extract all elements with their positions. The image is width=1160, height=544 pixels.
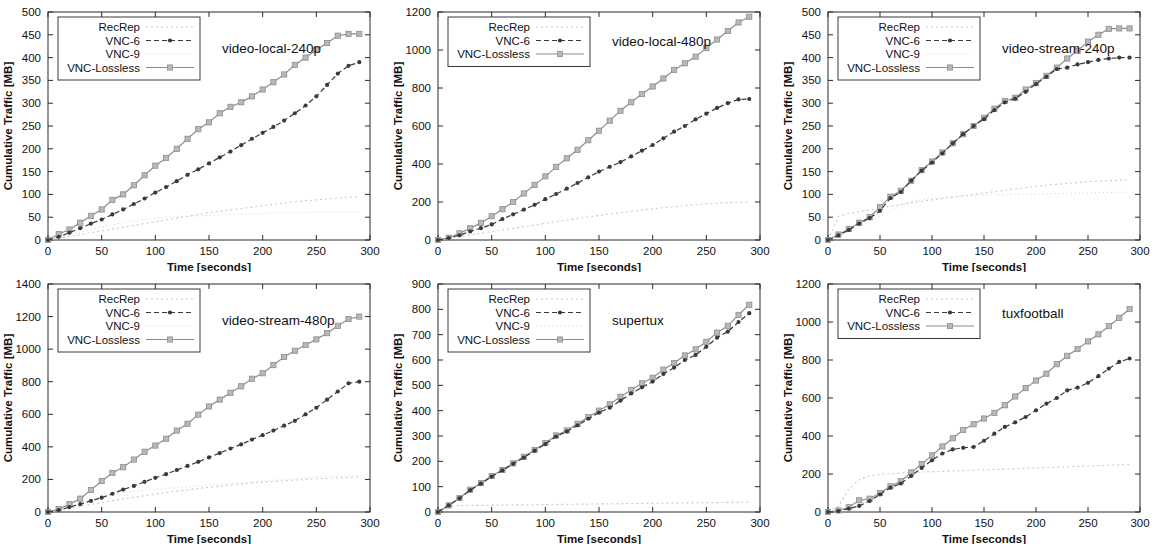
series-marker-VNC-Lossless	[971, 422, 976, 427]
series-marker-VNC-6	[336, 389, 340, 393]
y-tick-label: 800	[22, 376, 41, 388]
series-marker-VNC-6	[479, 482, 483, 486]
series-line-RecRep	[438, 502, 749, 512]
series-marker-VNC-6	[1076, 62, 1080, 66]
x-axis-title: Time [seconds]	[167, 261, 251, 272]
series-marker-VNC-6	[597, 411, 601, 415]
x-tick-label: 250	[1078, 517, 1097, 529]
series-marker-VNC-6	[357, 380, 361, 384]
series-marker-VNC-6	[575, 423, 579, 427]
legend-label-RecRep: RecRep	[488, 21, 530, 33]
series-marker-VNC-Lossless	[346, 316, 351, 321]
legend-label-VNC-9: VNC-9	[105, 320, 140, 332]
chart-panel-supertux: 0100200300400500600700800900050100150200…	[390, 272, 780, 544]
y-tick-label: 450	[22, 29, 41, 41]
series-marker-VNC-6	[175, 179, 179, 183]
x-tick-label: 100	[536, 517, 555, 529]
legend-marker-VNC-Lossless	[167, 65, 172, 70]
series-marker-VNC-6	[271, 428, 275, 432]
legend-marker-VNC-Lossless	[947, 65, 952, 70]
series-marker-VNC-Lossless	[929, 453, 934, 458]
series-marker-VNC-6	[1044, 75, 1048, 79]
series-marker-VNC-6	[920, 466, 924, 470]
series-marker-VNC-6	[836, 509, 840, 513]
series-marker-VNC-6	[89, 499, 93, 503]
legend-label-VNC-6: VNC-6	[495, 307, 530, 319]
x-tick-label: 50	[874, 245, 887, 257]
y-axis-title: Cumulative Traffic [MB]	[782, 334, 794, 463]
series-marker-VNC-6	[67, 505, 71, 509]
series-marker-VNC-Lossless	[532, 182, 537, 187]
y-tick-label: 350	[802, 74, 821, 86]
series-marker-VNC-Lossless	[303, 55, 308, 60]
series-marker-VNC-6	[961, 132, 965, 136]
series-marker-VNC-Lossless	[121, 192, 126, 197]
series-marker-VNC-Lossless	[1065, 56, 1070, 61]
series-marker-VNC-6	[972, 124, 976, 128]
x-tick-label: 300	[750, 245, 769, 257]
series-marker-VNC-Lossless	[88, 487, 93, 492]
series-marker-VNC-Lossless	[346, 31, 351, 36]
series-marker-VNC-6	[899, 481, 903, 485]
series-marker-VNC-Lossless	[1117, 26, 1122, 31]
series-marker-VNC-6	[847, 228, 851, 232]
series-marker-VNC-6	[228, 446, 232, 450]
x-tick-label: 50	[874, 517, 887, 529]
series-marker-VNC-6	[961, 446, 965, 450]
series-marker-VNC-Lossless	[607, 118, 612, 123]
legend-marker-VNC-Lossless	[947, 323, 952, 328]
x-tick-label: 100	[146, 245, 165, 257]
series-marker-VNC-6	[46, 510, 50, 514]
series-marker-VNC-Lossless	[292, 62, 297, 67]
series-marker-VNC-Lossless	[650, 84, 655, 89]
series-marker-VNC-Lossless	[714, 37, 719, 42]
x-tick-label: 250	[307, 517, 326, 529]
y-axis-title: Cumulative Traffic [MB]	[392, 62, 404, 191]
series-marker-VNC-Lossless	[121, 465, 126, 470]
series-marker-VNC-6	[694, 353, 698, 357]
y-tick-label: 300	[412, 430, 431, 442]
series-marker-VNC-6	[575, 181, 579, 185]
series-marker-VNC-6	[1065, 388, 1069, 392]
series-marker-VNC-6	[522, 455, 526, 459]
series-marker-VNC-6	[683, 358, 687, 362]
series-marker-VNC-6	[629, 154, 633, 158]
series-marker-VNC-6	[554, 434, 558, 438]
series-marker-VNC-6	[982, 439, 986, 443]
series-marker-VNC-6	[357, 60, 361, 64]
series-marker-VNC-6	[250, 137, 254, 141]
series-marker-VNC-Lossless	[747, 302, 752, 307]
series-marker-VNC-6	[457, 233, 461, 237]
series-marker-VNC-6	[618, 398, 622, 402]
y-tick-label: 600	[22, 408, 41, 420]
series-marker-VNC-Lossless	[992, 410, 997, 415]
y-tick-label: 800	[412, 82, 431, 94]
series-marker-VNC-6	[543, 197, 547, 201]
series-marker-VNC-6	[511, 212, 515, 216]
series-marker-VNC-6	[951, 141, 955, 145]
series-marker-VNC-6	[185, 173, 189, 177]
y-tick-label: 350	[22, 74, 41, 86]
series-marker-VNC-6	[565, 187, 569, 191]
series-marker-VNC-6	[1013, 420, 1017, 424]
series-marker-VNC-Lossless	[217, 397, 222, 402]
series-marker-VNC-6	[207, 161, 211, 165]
series-marker-VNC-6	[736, 97, 740, 101]
y-tick-label: 300	[802, 97, 821, 109]
x-axis-title: Time [seconds]	[167, 533, 251, 544]
series-marker-VNC-Lossless	[357, 31, 362, 36]
series-marker-VNC-6	[1024, 90, 1028, 94]
series-marker-VNC-Lossless	[693, 347, 698, 352]
series-marker-VNC-6	[836, 233, 840, 237]
series-marker-VNC-Lossless	[1127, 26, 1132, 31]
series-marker-VNC-6	[500, 217, 504, 221]
series-marker-VNC-6	[132, 484, 136, 488]
y-tick-label: 1400	[15, 278, 41, 290]
series-marker-VNC-6	[261, 433, 265, 437]
series-marker-VNC-6	[1117, 56, 1121, 60]
x-tick-label: 50	[95, 517, 108, 529]
series-marker-VNC-Lossless	[174, 428, 179, 433]
series-marker-VNC-Lossless	[131, 457, 136, 462]
series-marker-VNC-Lossless	[357, 314, 362, 319]
x-tick-label: 250	[1078, 245, 1097, 257]
